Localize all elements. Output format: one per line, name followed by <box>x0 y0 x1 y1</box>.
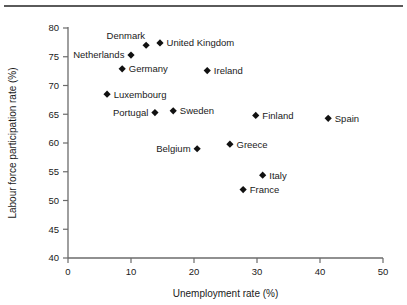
scatter-plot-svg: 40455055606570758001020304050Unemploymen… <box>0 0 407 305</box>
x-tick-label-40: 40 <box>315 266 326 277</box>
y-tick-label-40: 40 <box>48 252 59 263</box>
y-tick-label-80: 80 <box>48 22 59 33</box>
x-tick-label-0: 0 <box>65 266 70 277</box>
point-label-portugal: Portugal <box>113 107 148 118</box>
data-point: Netherlands <box>73 49 134 60</box>
point-marker-finland <box>252 112 259 119</box>
point-label-luxembourg: Luxembourg <box>114 89 167 100</box>
data-point: Luxembourg <box>103 89 166 100</box>
data-point: Germany <box>119 63 169 74</box>
point-marker-sweden <box>170 107 177 114</box>
point-marker-germany <box>119 65 126 72</box>
x-tick-label-20: 20 <box>189 266 200 277</box>
point-marker-united-kingdom <box>156 39 163 46</box>
point-label-finland: Finland <box>262 110 293 121</box>
point-label-germany: Germany <box>129 63 168 74</box>
point-label-united-kingdom: United Kingdom <box>167 37 235 48</box>
data-point: Spain <box>325 113 360 124</box>
point-marker-italy <box>259 172 266 179</box>
data-point: Ireland <box>204 65 243 76</box>
point-label-netherlands: Netherlands <box>73 49 124 60</box>
data-point: United Kingdom <box>156 37 234 48</box>
point-label-greece: Greece <box>237 139 268 150</box>
point-marker-spain <box>325 115 332 122</box>
y-tick-label-75: 75 <box>48 51 59 62</box>
data-point: Denmark <box>107 30 150 49</box>
x-axis-title: Unemployment rate (%) <box>173 288 279 299</box>
y-axis-title: Labour force participation rate (%) <box>7 67 18 218</box>
chart-figure: 40455055606570758001020304050Unemploymen… <box>0 0 407 305</box>
point-label-spain: Spain <box>335 113 359 124</box>
point-label-france: France <box>250 184 280 195</box>
scatter-plot-area: 40455055606570758001020304050Unemploymen… <box>0 0 407 305</box>
x-tick-label-50: 50 <box>378 266 389 277</box>
point-marker-france <box>240 186 247 193</box>
data-point: Sweden <box>170 105 215 116</box>
point-marker-luxembourg <box>103 91 110 98</box>
point-marker-greece <box>226 141 233 148</box>
data-point: Finland <box>252 110 293 121</box>
x-tick-label-30: 30 <box>252 266 263 277</box>
point-label-belgium: Belgium <box>156 143 190 154</box>
point-label-denmark: Denmark <box>107 30 146 41</box>
data-point: Portugal <box>113 107 159 118</box>
y-tick-label-50: 50 <box>48 195 59 206</box>
point-marker-ireland <box>204 67 211 74</box>
data-point: France <box>240 184 280 195</box>
data-point: Belgium <box>156 143 201 154</box>
y-tick-label-55: 55 <box>48 166 59 177</box>
point-label-italy: Italy <box>269 170 287 181</box>
point-marker-netherlands <box>127 51 134 58</box>
y-tick-label-45: 45 <box>48 224 59 235</box>
point-label-sweden: Sweden <box>180 105 214 116</box>
data-point: Greece <box>226 139 267 150</box>
point-marker-portugal <box>151 109 158 116</box>
y-tick-label-70: 70 <box>48 80 59 91</box>
y-tick-label-60: 60 <box>48 137 59 148</box>
data-point: Italy <box>259 170 287 181</box>
point-marker-denmark <box>143 42 150 49</box>
point-label-ireland: Ireland <box>214 65 243 76</box>
point-marker-belgium <box>194 145 201 152</box>
x-tick-label-10: 10 <box>126 266 137 277</box>
y-tick-label-65: 65 <box>48 109 59 120</box>
